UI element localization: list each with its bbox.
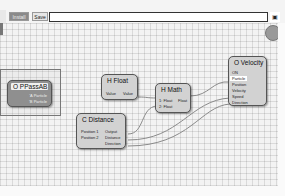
canvas-side-handle[interactable] (0, 23, 3, 35)
port-velocity[interactable]: Velocity (232, 88, 246, 93)
port-float-2[interactable]: 2: Float (159, 104, 172, 109)
port-speed[interactable]: Speed (232, 94, 244, 99)
port-on[interactable]: ON (232, 70, 238, 75)
port-a-particle[interactable]: ‘A Particle (29, 93, 47, 98)
port-particle[interactable]: Particle (230, 76, 247, 81)
port-float-1[interactable]: 1: Float (159, 98, 172, 103)
port-direction[interactable]: Direction (105, 141, 121, 146)
node-title: O PPassAB (11, 83, 48, 90)
node-title: H Float (102, 75, 137, 84)
canvas-bottom-edge (0, 186, 285, 196)
node-velocity[interactable]: O Velocity ON Particle Position Velocity… (228, 56, 267, 106)
port-position[interactable]: Position (232, 82, 246, 87)
port-value-in[interactable]: Value (106, 91, 116, 96)
port-position-2[interactable]: Position 2 (81, 135, 99, 140)
node-math[interactable]: H Math 1: Float 2: Float Float (155, 83, 191, 113)
node-float[interactable]: H Float Value Value (101, 74, 138, 100)
node-title: O Velocity (229, 57, 266, 66)
toolbar-left-edge (0, 10, 6, 23)
mf-icon[interactable]: ▣ (270, 12, 280, 22)
path-input[interactable] (49, 12, 268, 22)
port-value-out[interactable]: Value (123, 91, 133, 96)
canvas-right-edge (278, 23, 285, 186)
node-distance[interactable]: C Distance Position 1 Position 2 Output … (76, 113, 126, 149)
port-b-particle[interactable]: ‘B Particle (29, 99, 47, 104)
save-button[interactable]: Save (32, 12, 48, 21)
port-direction[interactable]: Direction (232, 100, 248, 105)
port-output[interactable]: Output (105, 129, 117, 134)
install-button[interactable]: Install (9, 12, 29, 21)
node-title: H Math (156, 84, 190, 93)
node-title: C Distance (77, 114, 125, 123)
port-distance[interactable]: Distance (105, 135, 121, 140)
port-float-out[interactable]: Float (178, 98, 187, 103)
node-ppassab[interactable]: O PPassAB ‘A Particle ‘B Particle (7, 80, 52, 107)
port-position-1[interactable]: Position 1 (81, 129, 99, 134)
